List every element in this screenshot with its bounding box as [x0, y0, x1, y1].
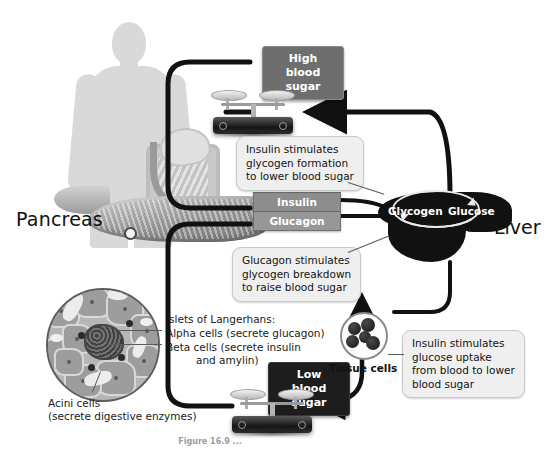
callout-insulin-glycogen: Insulin stimulates glycogen formation to…	[236, 136, 364, 191]
scale-pan-left	[211, 90, 247, 101]
tissue-cells-circle	[340, 312, 388, 360]
scale-pan-left	[230, 389, 266, 400]
callout-tail-uptake	[388, 354, 404, 355]
callout-insulin-uptake: Insulin stimulates glucose uptake from b…	[402, 330, 525, 398]
glucagon-label: Glucagon	[254, 212, 340, 230]
tissue-cell	[361, 318, 375, 332]
tissue-cells-label: Tissue cells	[329, 362, 397, 374]
tissue-cell	[346, 335, 359, 348]
diagram-canvas: Pancreas Islets of Langerhans: Alpha cel…	[0, 0, 550, 452]
low-blood-sugar-scale	[232, 389, 312, 433]
tissue-cell	[366, 336, 380, 350]
figure-caption: Figure 16.9 ...	[0, 437, 420, 446]
high-blood-sugar-scale	[213, 90, 293, 134]
scale-post	[270, 403, 275, 417]
scale-shadow	[236, 430, 308, 437]
liver-label: Liver	[494, 216, 541, 238]
insulin-label: Insulin	[254, 193, 340, 212]
hormone-bar: Insulin Glucagon	[253, 192, 341, 231]
scale-post	[251, 104, 256, 118]
glycogen-label: Glycogen	[388, 205, 443, 217]
glucose-label: Glucose	[448, 205, 495, 217]
callout-glucagon-breakdown: Glucagon stimulates glycogen breakdown t…	[232, 247, 361, 302]
